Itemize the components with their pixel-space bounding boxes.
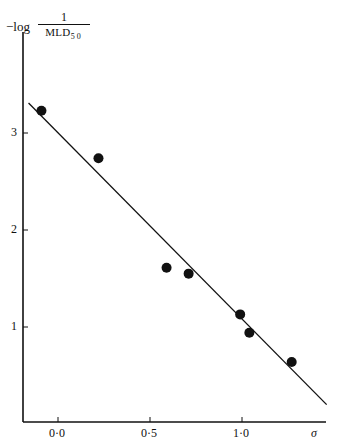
data-point bbox=[184, 269, 194, 279]
x-axis-label: σ bbox=[311, 426, 317, 441]
y-tick-label: 2 bbox=[11, 222, 17, 237]
x-tick-label: 0·0 bbox=[49, 426, 65, 441]
data-point bbox=[287, 357, 297, 367]
data-point bbox=[36, 106, 46, 116]
data-point bbox=[235, 309, 245, 319]
scatter-plot bbox=[0, 0, 340, 445]
x-tick-label: 1·0 bbox=[233, 426, 249, 441]
data-point bbox=[93, 153, 103, 163]
y-tick-label: 1 bbox=[11, 319, 17, 334]
regression-line bbox=[29, 103, 327, 405]
x-tick-label: 0·5 bbox=[141, 426, 157, 441]
data-point bbox=[244, 328, 254, 338]
y-tick-label: 3 bbox=[11, 125, 17, 140]
data-point bbox=[162, 263, 172, 273]
